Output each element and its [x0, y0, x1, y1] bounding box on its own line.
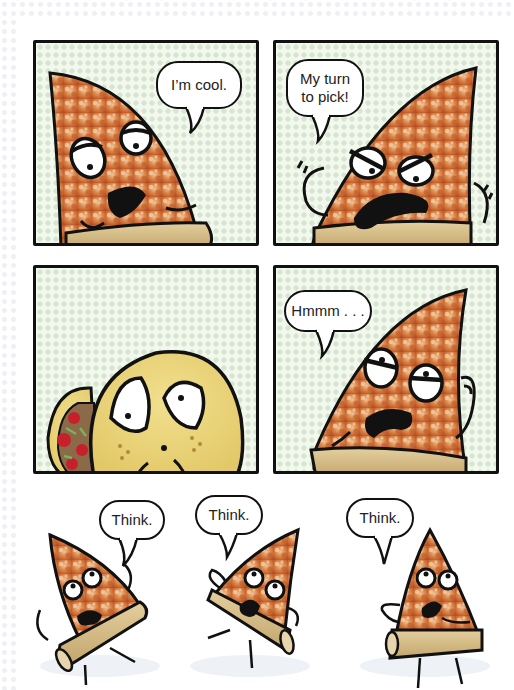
comic-panel-3 [33, 265, 259, 474]
speech-bubble-panel-4: Hmmm . . . [284, 290, 372, 332]
comic-panel-1: I’m cool. [33, 40, 259, 246]
speech-text: Hmmm . . . [291, 302, 364, 320]
speech-bubble-think-2: Think. [195, 495, 263, 535]
bottom-row-thinking: Think. Think. Think. [0, 490, 514, 690]
speech-text: My turn to pick! [300, 70, 350, 106]
speech-text: Think. [112, 511, 153, 529]
speech-bubble-think-3: Think. [346, 498, 414, 538]
taco-worried-illustration [36, 268, 259, 474]
speech-bubble-panel-1: I’m cool. [156, 61, 242, 109]
speech-text: I’m cool. [171, 76, 227, 94]
comic-panel-4: Hmmm . . . [273, 265, 499, 474]
speech-bubble-think-1: Think. [99, 500, 165, 540]
comic-panel-2: My turn to pick! [273, 40, 499, 246]
speech-text: Think. [360, 509, 401, 527]
speech-bubble-panel-2: My turn to pick! [286, 59, 364, 117]
speech-text: Think. [209, 506, 250, 524]
